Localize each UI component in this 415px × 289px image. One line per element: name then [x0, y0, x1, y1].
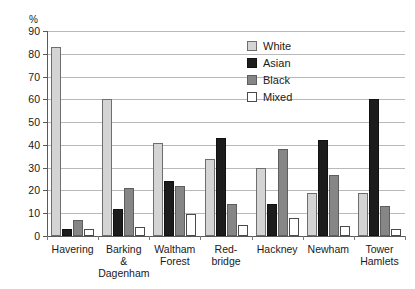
bar-mixed [84, 229, 94, 236]
legend-label-asian: Asian [263, 57, 291, 69]
y-tick-label: 60 [14, 94, 40, 104]
bar-white [51, 47, 61, 236]
bar-mixed [289, 218, 299, 236]
gridline [47, 31, 405, 32]
bar-white [358, 193, 368, 236]
x-axis-label-line: Barking [98, 243, 149, 255]
bar-asian [113, 209, 123, 236]
x-axis-label-line: Waltham [149, 243, 200, 255]
y-tick-label: 90 [14, 26, 40, 36]
x-tick-mark [200, 236, 201, 240]
y-tick-label: 0 [14, 231, 40, 241]
legend-swatch-black-icon [247, 75, 257, 85]
x-tick-mark [252, 236, 253, 240]
bar-asian [369, 99, 379, 236]
x-axis-label-line: bridge [200, 255, 251, 267]
x-axis-label-line: & [98, 255, 149, 267]
x-axis-label-line: Tower [354, 243, 405, 255]
bar-mixed [340, 226, 350, 236]
y-tick-label: 70 [14, 72, 40, 82]
bar-mixed [186, 214, 196, 236]
bar-white [256, 168, 266, 236]
y-axis-unit-label: % [29, 14, 38, 25]
x-axis-label-line: Havering [47, 243, 98, 255]
legend-label-white: White [263, 40, 291, 52]
bar-asian [216, 138, 226, 236]
x-tick-mark [303, 236, 304, 240]
bar-black [278, 149, 288, 236]
bar-chart: % 0102030405060708090 HaveringBarking&Da… [0, 0, 415, 289]
y-tick-label: 50 [14, 117, 40, 127]
x-tick-mark [405, 236, 406, 240]
bar-asian [164, 181, 174, 236]
bar-black [329, 175, 339, 237]
y-tick-label: 80 [14, 49, 40, 59]
bar-mixed [391, 229, 401, 236]
x-axis-label: Hackney [252, 243, 303, 255]
bar-black [175, 186, 185, 236]
bar-black [380, 206, 390, 236]
x-axis-label-line: Hamlets [354, 255, 405, 267]
x-tick-mark [149, 236, 150, 240]
legend-item-black: Black [247, 72, 327, 87]
x-axis-label-line: Forest [149, 255, 200, 267]
gridline [47, 77, 405, 78]
x-tick-mark [47, 236, 48, 240]
bar-asian [267, 204, 277, 236]
gridline [47, 168, 405, 169]
gridline [47, 190, 405, 191]
gridline [47, 122, 405, 123]
bar-mixed [135, 227, 145, 236]
x-axis-label: Havering [47, 243, 98, 255]
x-axis-label: Newham [303, 243, 354, 255]
legend-item-mixed: Mixed [247, 89, 327, 104]
gridline [47, 54, 405, 55]
gridline [47, 145, 405, 146]
x-tick-mark [354, 236, 355, 240]
bar-white [102, 99, 112, 236]
legend-item-asian: Asian [247, 55, 327, 70]
x-axis-label-line: Hackney [252, 243, 303, 255]
bar-asian [318, 140, 328, 236]
legend-swatch-white-icon [247, 41, 257, 51]
x-axis-label-line: Dagenham [98, 267, 149, 279]
legend-item-white: White [247, 38, 327, 53]
y-axis-line [47, 31, 48, 237]
bar-mixed [238, 225, 248, 236]
x-axis-label-line: Newham [303, 243, 354, 255]
bar-black [227, 204, 237, 236]
y-tick-label: 20 [14, 185, 40, 195]
bar-black [124, 188, 134, 236]
x-axis-label: Barking&Dagenham [98, 243, 149, 279]
bar-asian [62, 229, 72, 236]
x-axis-line [47, 236, 405, 237]
bar-white [307, 193, 317, 236]
bar-black [73, 220, 83, 236]
y-tick-label: 30 [14, 163, 40, 173]
x-axis-label: TowerHamlets [354, 243, 405, 267]
legend-label-black: Black [263, 74, 290, 86]
y-tick-label: 10 [14, 208, 40, 218]
x-tick-mark [98, 236, 99, 240]
x-axis-label: Red-bridge [200, 243, 251, 267]
legend-label-mixed: Mixed [263, 91, 292, 103]
legend-swatch-mixed-icon [247, 92, 257, 102]
bar-white [205, 159, 215, 236]
y-tick-label: 40 [14, 140, 40, 150]
x-axis-label: WalthamForest [149, 243, 200, 267]
legend-swatch-asian-icon [247, 58, 257, 68]
bar-white [153, 143, 163, 236]
gridline [47, 99, 405, 100]
x-axis-label-line: Red- [200, 243, 251, 255]
legend: White Asian Black Mixed [247, 38, 327, 106]
